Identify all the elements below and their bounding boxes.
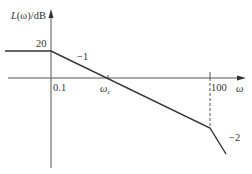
tick-label-0.1: 0.1 — [53, 82, 66, 93]
bode-magnitude-plot: L(ω)/dB ω 20 0.1 ωc 100 −1 −2 — [0, 0, 252, 174]
magnitude-curve — [5, 51, 226, 154]
x-axis-arrow-icon — [237, 76, 246, 81]
tick-label-wc: ωc — [100, 83, 111, 96]
y-axis-arrow-icon — [49, 9, 54, 18]
y-axis-label: L(ω)/dB — [10, 10, 46, 22]
slope-label-minus-2: −2 — [229, 132, 240, 143]
tick-label-100: 100 — [211, 82, 227, 93]
x-axis-label: ω — [236, 83, 243, 94]
tick-label-20: 20 — [36, 38, 47, 49]
slope-label-minus-1: −1 — [77, 51, 88, 62]
